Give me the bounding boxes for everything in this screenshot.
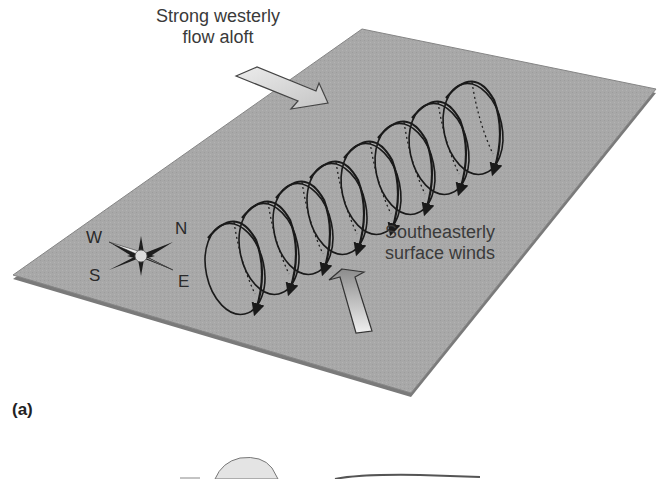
- panel-label: (a): [12, 400, 33, 420]
- compass-west-label: W: [86, 229, 102, 247]
- westerly-flow-label: Strong westerly flow aloft: [148, 6, 288, 48]
- surface-winds-label-line1: Southeasterly: [370, 222, 510, 243]
- compass-north-label: N: [175, 220, 187, 238]
- westerly-flow-label-line2: flow aloft: [148, 27, 288, 48]
- ground-plane: [13, 29, 656, 397]
- compass-east-label: E: [178, 273, 189, 291]
- surface-winds-label-line2: surface winds: [370, 243, 510, 264]
- tornado-vortex-diagram: Strong westerly flow aloft Southeasterly…: [0, 0, 662, 479]
- surface-winds-label: Southeasterly surface winds: [370, 222, 510, 264]
- figure-b-partial: [180, 457, 480, 479]
- compass-south-label: S: [89, 267, 100, 285]
- westerly-flow-label-line1: Strong westerly: [148, 6, 288, 27]
